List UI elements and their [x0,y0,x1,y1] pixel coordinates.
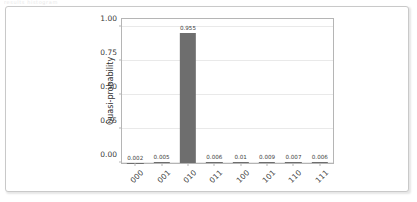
chart-card: 0.000.250.500.751.00 Quasi-probability 0… [5,6,409,192]
bar-value-label: 0.006 [206,154,222,160]
x-tick-mark [214,163,215,166]
x-tick-mark [187,163,188,166]
bar-slot: 0.007 [280,19,306,163]
x-tick-label: 000 [129,168,146,185]
x-tick-label: 110 [287,168,304,185]
bars-container: 0.0020.0050.9550.0060.010.0090.0070.006 [122,19,333,163]
x-tick-label: 001 [155,168,172,185]
bar-value-label: 0.007 [285,154,301,160]
bar-slot: 0.009 [254,19,280,163]
bar-value-label: 0.006 [312,154,328,160]
x-tick-label: 010 [181,168,198,185]
bar-slot: 0.955 [175,19,201,163]
bar-value-label: 0.955 [180,25,196,31]
x-tick-mark [240,163,241,166]
bar-slot: 0.006 [307,19,333,163]
bar-slot: 0.005 [148,19,174,163]
x-tick-label: 011 [208,168,225,185]
plot-axes: 0.000.250.500.751.00 Quasi-probability 0… [121,18,334,164]
bar-chart-figure: 0.000.250.500.751.00 Quasi-probability 0… [6,7,408,191]
y-tick-label: 0.00 [100,150,122,159]
y-axis-label: Quasi-probability [106,57,115,125]
x-tick-mark [161,163,162,166]
x-tick-mark [293,163,294,166]
bar-value-label: 0.009 [259,154,275,160]
x-tick-label: 101 [261,168,278,185]
x-tick-mark [267,163,268,166]
clipped-text-artifact: results histogram [4,0,74,5]
bar-value-label: 0.01 [234,154,246,160]
x-tick-mark [135,163,136,166]
x-tick-mark [319,163,320,166]
y-tick-label: 0.75 [100,48,122,57]
y-tick-label: 1.00 [100,14,122,23]
x-tick-label: 100 [234,168,251,185]
bar-slot: 0.002 [122,19,148,163]
bar-value-label: 0.005 [154,154,170,160]
bar-value-label: 0.002 [127,155,143,161]
bar-slot: 0.01 [228,19,254,163]
bar-slot: 0.006 [201,19,227,163]
bar [180,33,196,163]
x-tick-label: 111 [313,168,330,185]
